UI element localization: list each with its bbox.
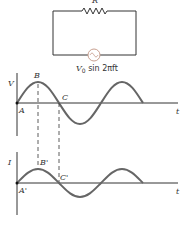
voltage-x-label: t: [176, 107, 180, 116]
label-b: B: [33, 71, 40, 80]
source-label: V0 sin 2πft: [76, 64, 118, 74]
resistor-icon: [82, 8, 107, 14]
current-graph: I t A' B' C': [7, 152, 180, 215]
point-a: [16, 102, 19, 105]
label-a-prime: A': [18, 186, 27, 195]
current-y-label: I: [7, 158, 12, 167]
point-a-prime: [16, 182, 19, 185]
circuit-wire-top-right: [100, 11, 136, 55]
circuit: R V0 sin 2πft: [53, 0, 136, 74]
label-a: A: [18, 106, 25, 115]
voltage-y-label: V: [8, 79, 15, 88]
diagram-canvas: R V0 sin 2πft V t A B C I t A' B' C': [0, 0, 184, 227]
label-c-prime: C': [60, 173, 68, 182]
current-x-label: t: [176, 187, 180, 196]
label-c: C: [62, 93, 68, 102]
resistor-label: R: [91, 0, 98, 5]
circuit-wire-top-left: [53, 11, 88, 55]
voltage-graph: V t A B C: [8, 71, 180, 136]
label-b-prime: B': [39, 158, 48, 167]
ac-source-icon: [88, 49, 100, 61]
